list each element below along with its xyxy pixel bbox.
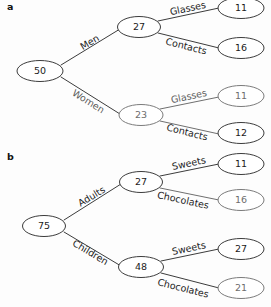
node-a-women-glasses: 11 [218, 86, 264, 107]
node-b-adults-sweets-value: 11 [235, 158, 247, 169]
node-b-children-value: 48 [135, 261, 147, 272]
node-a-men-glasses-value: 11 [235, 2, 247, 13]
node-b-children-sweets: 27 [218, 239, 264, 260]
node-b-adults-sweets: 11 [218, 154, 264, 175]
edge-label-children-sweets: Sweets [171, 239, 207, 257]
edge-label-adults-sweets: Sweets [171, 154, 207, 172]
node-b-children-chocolates-value: 21 [235, 282, 247, 293]
node-a-women-glasses-value: 11 [235, 90, 247, 101]
node-b-adults-chocolates-value: 16 [235, 194, 247, 205]
node-b-root: 75 [23, 216, 66, 237]
node-a-women-contacts: 12 [218, 123, 264, 144]
edge-label-children: Children [71, 237, 111, 267]
edge-label-men-contacts: Contacts [165, 36, 208, 57]
node-a-root: 50 [17, 61, 63, 82]
tree-diagram-canvas: 50 27 23 11 16 [0, 0, 271, 307]
node-b-root-value: 75 [38, 220, 50, 231]
node-a-men-glasses: 11 [218, 0, 264, 19]
panel-b-group: 75 27 48 11 16 [23, 154, 265, 300]
node-a-women: 23 [119, 105, 163, 126]
node-a-men: 27 [118, 17, 161, 38]
panel-a-group: 50 27 23 11 16 [17, 0, 264, 144]
node-a-root-value: 50 [34, 65, 46, 76]
node-a-men-contacts: 16 [218, 38, 264, 59]
edge-label-women-glasses: Glasses [170, 87, 208, 105]
node-b-children-sweets-value: 27 [235, 243, 247, 254]
node-a-men-contacts-value: 16 [235, 42, 247, 53]
node-b-children-chocolates: 21 [218, 278, 264, 299]
node-a-women-contacts-value: 12 [235, 127, 247, 138]
tree-diagram-figure: a b 50 27 [0, 0, 271, 307]
node-b-children: 48 [119, 257, 164, 278]
node-b-adults-chocolates: 16 [218, 190, 264, 211]
node-b-adults: 27 [120, 172, 163, 193]
edge-label-women-contacts: Contacts [166, 122, 209, 143]
edge-label-children-chocolates: Chocolates [156, 276, 210, 299]
node-a-women-value: 23 [135, 109, 147, 120]
node-b-adults-value: 27 [135, 176, 147, 187]
node-a-men-value: 27 [133, 21, 145, 32]
edge-label-men: Men [78, 32, 101, 52]
edge-label-women: Women [70, 87, 106, 115]
